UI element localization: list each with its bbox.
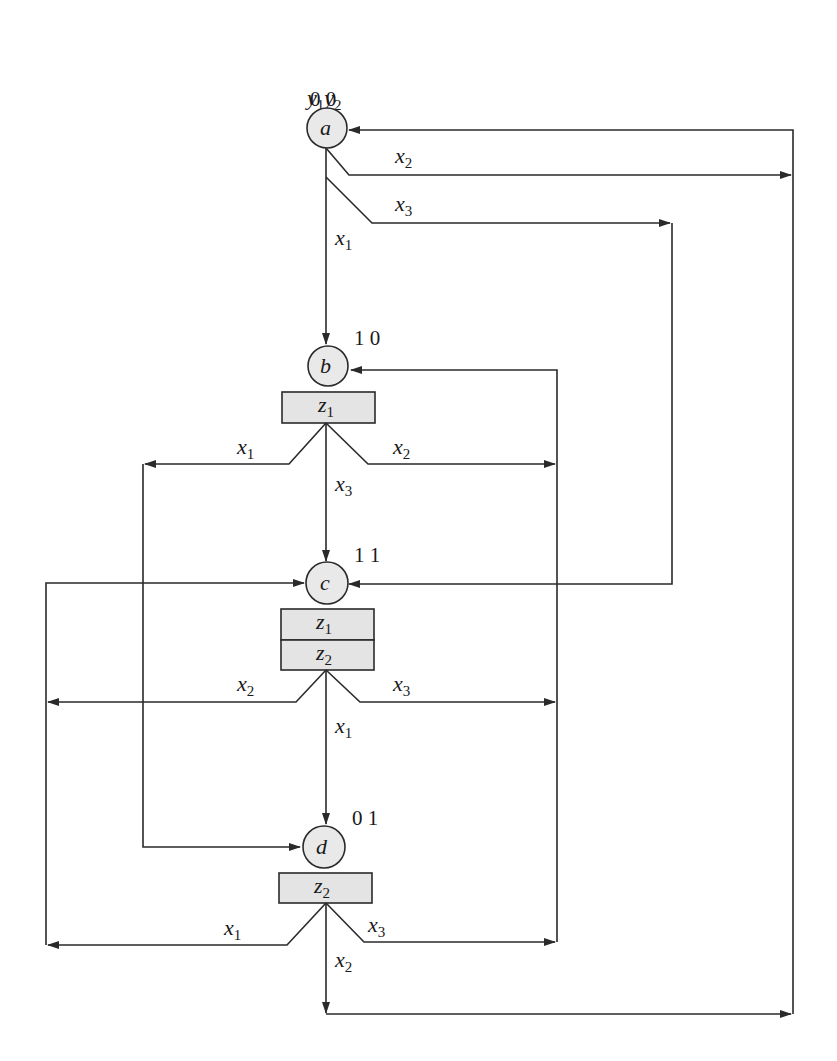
edge-return-to-b xyxy=(351,370,557,942)
state-c-label: c xyxy=(320,570,330,595)
edge-b-d xyxy=(145,423,326,464)
state-b-code: 1 0 xyxy=(354,326,380,350)
edge-b-d-path xyxy=(143,464,300,847)
edge-c-d-label: x1 xyxy=(334,713,352,741)
edge-d-b-label: x3 xyxy=(367,912,385,940)
edge-c-b xyxy=(326,670,555,702)
edge-c-c xyxy=(48,670,326,702)
edge-a-a-label: x2 xyxy=(394,143,412,171)
edge-c-c-label: x2 xyxy=(236,671,254,699)
edge-b-c-label: x3 xyxy=(334,471,352,499)
state-d-code: 0 1 xyxy=(352,806,378,830)
edge-return-to-a xyxy=(349,130,793,1014)
state-d: 0 1 d z2 xyxy=(279,806,378,903)
edge-a-c xyxy=(326,177,670,223)
edge-a-b-label: x1 xyxy=(334,225,352,253)
state-a-label: a xyxy=(320,115,331,140)
state-a-code: 0 0 xyxy=(310,87,336,111)
state-c: 1 1 c z1 z2 xyxy=(281,543,380,670)
edge-c-b-label: x3 xyxy=(392,671,410,699)
edge-d-c-label: x1 xyxy=(223,915,241,943)
state-d-label: d xyxy=(316,834,328,859)
state-c-code: 1 1 xyxy=(354,543,380,567)
edge-b-b xyxy=(326,423,555,464)
asm-diagram: y1y2 0 0 a x1 x2 x3 1 0 b z1 x1 x2 x3 1 … xyxy=(0,0,837,1061)
edge-return-to-c xyxy=(46,583,304,945)
edge-d-c xyxy=(48,903,326,945)
edge-a-c-return xyxy=(349,223,672,584)
edge-b-d-label: x1 xyxy=(236,434,254,462)
state-b-label: b xyxy=(320,353,331,378)
edge-b-b-label: x2 xyxy=(392,434,410,462)
edge-a-c-label: x3 xyxy=(394,191,412,219)
edge-d-b xyxy=(326,903,555,942)
edge-d-a-label: x2 xyxy=(334,947,352,975)
state-b: 1 0 b z1 xyxy=(282,326,380,423)
